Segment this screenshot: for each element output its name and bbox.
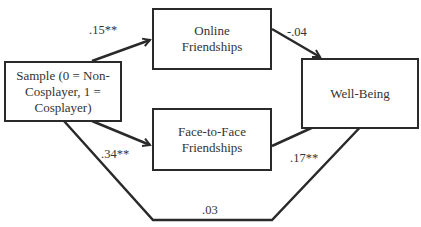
node-sample-line: Cosplayer, 1 =: [16, 84, 110, 100]
coef-sample-online: .15**: [89, 23, 117, 38]
node-sample: Sample (0 = Non- Cosplayer, 1 = Cosplaye…: [4, 61, 122, 122]
node-well-being: Well-Being: [301, 58, 419, 129]
coef-face-wellbeing: .17**: [290, 151, 318, 166]
node-face-to-face-friendships: Face-to-Face Friendships: [152, 108, 272, 171]
node-online-friendships: Online Friendships: [152, 8, 272, 70]
node-sample-line: Cosplayer): [16, 100, 110, 116]
node-online-line: Online: [182, 23, 243, 39]
node-sample-line: Sample (0 = Non-: [16, 68, 110, 84]
coef-sample-face: .34**: [101, 147, 129, 162]
node-face-line: Face-to-Face: [178, 124, 246, 140]
node-wellbeing-label: Well-Being: [330, 86, 390, 102]
arrow-sample-to-online: [92, 40, 150, 61]
node-online-line: Friendships: [182, 39, 243, 55]
coef-sample-wellbeing: .03: [202, 203, 218, 218]
node-face-line: Friendships: [178, 140, 246, 156]
coef-online-wellbeing: -.04: [287, 25, 307, 40]
arrow-sample-to-face: [92, 121, 150, 145]
